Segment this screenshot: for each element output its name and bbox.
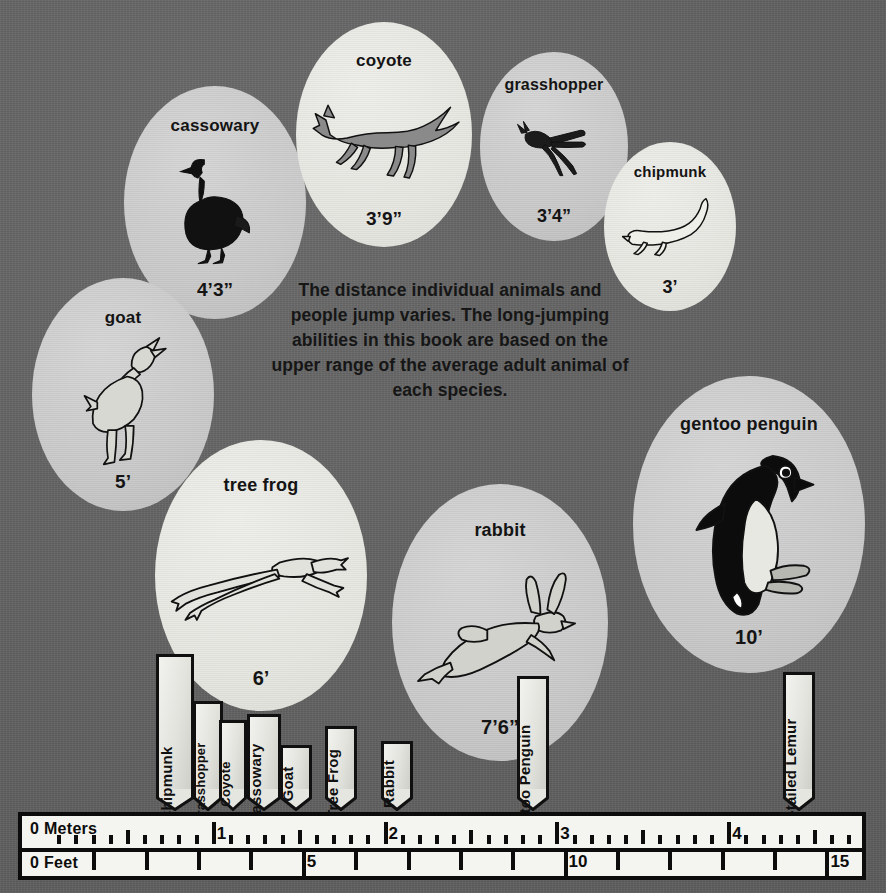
animal-distance-label: 4’3” [197, 280, 233, 299]
ruler-tick-meters [573, 835, 577, 844]
animal-name-label: grasshopper [504, 77, 603, 93]
caption-text: The distance individual animals and peop… [268, 278, 632, 403]
ruler-tick-meters [109, 835, 113, 844]
ruler-tick-meters [521, 835, 525, 844]
animal-name-label: goat [105, 309, 142, 326]
ruler-tick-meters [590, 835, 594, 844]
animal-distance-label: 3’ [662, 278, 677, 296]
ruler-tick-meters [332, 835, 336, 844]
animal-bubble-rabbit: rabbit 7’6” [392, 484, 608, 761]
ruler-tick-meters [469, 830, 473, 844]
ruler-tick-meters [212, 822, 216, 844]
ruler-feet-label: 0 Feet [30, 854, 78, 872]
ruler-tick-feet [354, 852, 358, 870]
ruler-tick-meters [762, 835, 766, 844]
distance-marker-chipmunk[interactable]: Chipmunk [156, 654, 194, 790]
animal-distance-label: 3’9” [366, 209, 402, 228]
ruler-tick-meters [830, 835, 834, 844]
ruler-tick-meters [435, 835, 439, 844]
distance-marker-ring-tailed-lemur[interactable]: Ring-tailed Lemur [783, 672, 815, 790]
distance-marker-coyote[interactable]: Coyote [219, 720, 247, 790]
animal-bubble-gentoo-penguin: gentoo penguin 10’ [633, 376, 865, 673]
ruler-tick-meters [143, 835, 147, 844]
ruler-tick-feet [407, 852, 411, 870]
ruler-tick-feet [302, 852, 306, 878]
dual-scale-ruler: 0 Meters 0 Feet 123451015 [18, 812, 866, 880]
goat-icon [32, 326, 214, 472]
gentoo-penguin-icon [633, 433, 865, 627]
animal-distance-label: 10’ [735, 627, 763, 647]
chipmunk-icon [604, 179, 736, 278]
ruler-tick-meters [281, 835, 285, 844]
distance-marker-gentoo-penguin[interactable]: Gentoo Penguin [517, 676, 549, 790]
ruler-tick-feet [197, 852, 201, 870]
animal-bubble-goat: goat 5’ [32, 278, 214, 511]
ruler-tick-meters [813, 830, 817, 844]
ruler-tick-meters [263, 835, 267, 844]
ruler-tick-meters [384, 822, 388, 844]
ruler-number-meters-4: 4 [732, 824, 741, 844]
animal-name-label: cassowary [171, 117, 260, 134]
ruler-tick-meters [315, 835, 319, 844]
ruler-tick-feet [668, 852, 672, 870]
ruler-tick-meters [779, 835, 783, 844]
marker-label: Coyote [218, 761, 233, 806]
ruler-tick-meters [658, 835, 662, 844]
distance-marker-tree-frog[interactable]: Tree Frog [325, 726, 357, 790]
marker-label: Chipmunk [158, 747, 175, 822]
ruler-tick-meters [298, 830, 302, 844]
ruler-meters-label: 0 Meters [30, 820, 97, 838]
rabbit-icon [392, 539, 608, 717]
ruler-tick-meters [796, 835, 800, 844]
ruler-number-meters-2: 2 [389, 824, 398, 844]
ruler-tick-meters [177, 835, 181, 844]
ruler-tick-meters [624, 835, 628, 844]
animal-distance-label: 7’6” [481, 717, 519, 737]
marker-label: Tree Frog [324, 749, 341, 819]
ruler-tick-meters [92, 835, 96, 844]
ruler-tick-feet [616, 852, 620, 870]
distance-marker-cassowary[interactable]: Cassowary [247, 714, 281, 790]
distance-marker-goat[interactable]: Goat [280, 745, 312, 790]
ruler-number-feet-5: 5 [307, 852, 316, 872]
ruler-tick-meters [57, 835, 61, 844]
ruler-tick-meters [744, 835, 748, 844]
ruler-tick-meters [366, 835, 370, 844]
ruler-tick-feet [721, 852, 725, 870]
marker-label: Rabbit [380, 760, 397, 808]
ruler-tick-meters [418, 835, 422, 844]
ruler-tick-meters [246, 835, 250, 844]
animal-name-label: tree frog [224, 476, 299, 494]
coyote-icon [296, 69, 472, 209]
ruler-tick-meters [676, 835, 680, 844]
ruler-tick-meters [487, 835, 491, 844]
ruler-tick-meters [401, 835, 405, 844]
ruler-tick-meters [126, 830, 130, 844]
infographic-page: cassowary 4’3”coyote 3’9”grasshopper [0, 0, 886, 893]
animal-name-label: rabbit [474, 521, 525, 539]
ruler-number-feet-10: 10 [569, 852, 588, 872]
ruler-tick-meters [641, 830, 645, 844]
ruler-tick-feet [459, 852, 463, 870]
ruler-tick-meters [555, 822, 559, 844]
animal-bubble-coyote: coyote 3’9” [296, 22, 472, 247]
ruler-tick-meters [504, 835, 508, 844]
ruler-tick-feet [511, 852, 515, 870]
animal-distance-label: 5’ [115, 472, 131, 491]
ruler-tick-feet [564, 852, 568, 878]
ruler-tick-meters [727, 822, 731, 844]
ruler-tick-meters [847, 835, 851, 844]
ruler-tick-meters [160, 835, 164, 844]
ruler-tick-meters [710, 835, 714, 844]
ruler-tick-meters [229, 835, 233, 844]
animal-name-label: gentoo penguin [680, 415, 818, 433]
animal-distance-label: 3’4” [537, 207, 571, 225]
ruler-tick-meters [607, 835, 611, 844]
marker-label: Goat [279, 767, 296, 802]
distance-marker-rabbit[interactable]: Rabbit [381, 741, 413, 790]
ruler-tick-feet [773, 852, 777, 870]
ruler-tick-feet [825, 852, 829, 878]
ruler-tick-meters [452, 835, 456, 844]
tree-frog-icon [155, 494, 367, 668]
cassowary-icon [124, 134, 306, 280]
